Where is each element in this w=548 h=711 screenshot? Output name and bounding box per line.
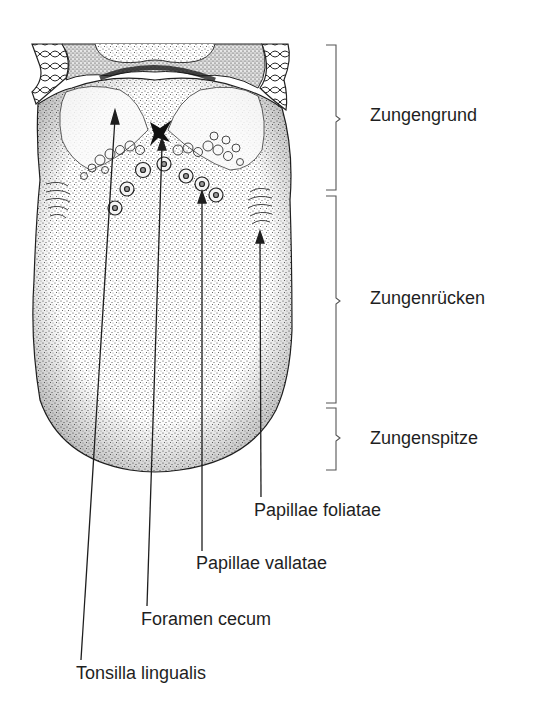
label-papillae-foliatae: Papillae foliatae bbox=[254, 500, 381, 520]
bracket-zungengrund bbox=[326, 45, 340, 190]
label-zungengrund: Zungengrund bbox=[370, 105, 477, 125]
bracket-zungenruecken bbox=[326, 196, 340, 403]
label-zungenspitze: Zungenspitze bbox=[370, 428, 478, 448]
label-foramen-cecum: Foramen cecum bbox=[141, 609, 271, 629]
bracket-zungenspitze bbox=[326, 408, 340, 470]
label-tonsilla-lingualis: Tonsilla lingualis bbox=[76, 663, 206, 683]
tongue-diagram: Zungengrund Zungenrücken Zungenspitze Pa… bbox=[0, 0, 548, 711]
label-zungenruecken: Zungenrücken bbox=[370, 288, 485, 308]
region-brackets bbox=[326, 45, 340, 470]
label-papillae-vallatae: Papillae vallatae bbox=[196, 553, 327, 573]
